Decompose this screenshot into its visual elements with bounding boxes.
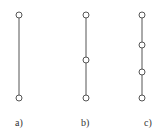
label-a: a) <box>15 117 23 128</box>
node-circle <box>139 69 145 75</box>
chain-a <box>16 12 22 101</box>
node-circle <box>139 42 145 48</box>
node-circle <box>139 12 145 18</box>
node-circle <box>16 95 22 101</box>
label-b: b) <box>81 117 89 128</box>
label-c: c) <box>144 117 152 128</box>
node-circle <box>139 95 145 101</box>
node-circle <box>16 12 22 18</box>
chain-c <box>139 12 145 101</box>
node-circle <box>83 12 89 18</box>
chain-b <box>83 12 89 101</box>
node-circle <box>83 57 89 63</box>
node-circle <box>83 95 89 101</box>
